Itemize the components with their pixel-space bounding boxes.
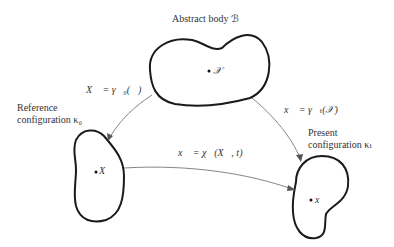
reference-config-label-line1: Reference (17, 102, 58, 113)
abstract-point (208, 70, 211, 73)
present-map-label: x⃗ = γ⃗ₜ(𝒳) (284, 104, 338, 116)
present-point-label: x⃗ (315, 194, 327, 205)
reference-config-label-line2: configuration κ₀ (17, 114, 82, 125)
reference-point (95, 171, 98, 174)
motion-arrow[interactable] (124, 167, 292, 189)
reference-map-arrow[interactable] (110, 95, 152, 137)
motion-map-label: x⃗ = χ⃗(X⃗, t) (178, 147, 242, 158)
present-point (310, 199, 313, 202)
reference-point-label: X⃗ (99, 165, 113, 176)
abstract-point-label: 𝒳 (213, 65, 222, 77)
present-config-label-line2: configuration κₜ (308, 139, 372, 150)
reference-map-label: X⃗ = γ⃗₀(𝒳) (86, 84, 141, 95)
present-map-arrowhead (296, 154, 303, 162)
abstract-body-label: Abstract body ℬ (172, 13, 239, 24)
present-config-label-line1: Present (308, 127, 337, 138)
